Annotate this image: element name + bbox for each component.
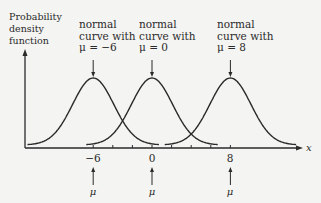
normal-curve-1 — [86, 78, 217, 145]
mean-marker-label-0: μ — [149, 186, 156, 197]
annotation-mu-8: normal curve with μ = 8 — [217, 19, 273, 54]
y-axis-label-line: function — [9, 35, 62, 47]
annotation-line: normal — [79, 19, 135, 31]
annotation-line: μ = 8 — [217, 42, 273, 54]
annotation-line: normal — [139, 19, 195, 31]
annotation-line: normal — [217, 19, 273, 31]
annotation-mu-neg6: normal curve with μ = −6 — [79, 19, 135, 54]
mean-marker-label-neg6: μ — [90, 186, 97, 197]
y-axis-label-line: Probability — [9, 11, 62, 23]
y-axis-label-line: density — [9, 23, 62, 35]
annotation-line: μ = 0 — [139, 42, 195, 54]
peak-arrow-icon — [228, 72, 232, 77]
y-axis-label: Probability density function — [9, 11, 62, 47]
x-tick-label-neg6: −6 — [85, 153, 100, 164]
mean-arrow-icon — [91, 167, 95, 172]
x-tick-label-0: 0 — [149, 153, 156, 164]
mean-arrow-icon — [228, 167, 232, 172]
peak-arrow-icon — [150, 72, 154, 77]
x-tick-label-8: 8 — [227, 153, 234, 164]
x-axis-label: x — [306, 142, 312, 153]
mean-marker-label-8: μ — [227, 186, 234, 197]
annotation-mu-0: normal curve with μ = 0 — [139, 19, 195, 54]
y-axis-arrow-icon — [23, 49, 28, 56]
mean-arrow-icon — [150, 167, 154, 172]
normal-curve-2 — [165, 78, 296, 145]
normal-curve-0 — [28, 78, 159, 145]
normal-curves-figure: Probability density function normal curv… — [0, 0, 321, 203]
peak-arrow-icon — [91, 72, 95, 77]
annotation-line: μ = −6 — [79, 42, 135, 54]
x-axis-arrow-icon — [296, 146, 303, 151]
